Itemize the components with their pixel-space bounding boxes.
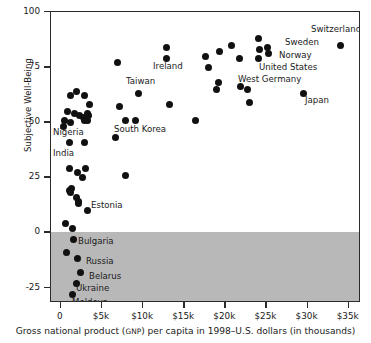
country-annotation: India: [53, 149, 74, 158]
data-point: [116, 103, 123, 110]
data-point: [81, 139, 88, 146]
plot-area: SwitzerlandSwedenNorwayUnited StatesWest…: [50, 11, 360, 302]
country-annotation: United States: [259, 63, 317, 72]
x-axis-label-pre: Gross national product (: [16, 326, 126, 336]
data-point: [216, 48, 223, 55]
data-point: [64, 108, 71, 115]
x-tick-mark: [348, 302, 349, 308]
country-annotation: South Korea: [114, 125, 166, 134]
data-point: [112, 134, 119, 141]
country-annotation: Ireland: [153, 62, 183, 71]
data-point: [213, 86, 220, 93]
country-annotation: West Germany: [238, 75, 301, 84]
country-annotation: Japan: [305, 96, 329, 105]
x-tick-mark: [224, 302, 225, 308]
data-point: [166, 101, 173, 108]
data-point: [255, 55, 262, 62]
data-point: [255, 35, 262, 42]
x-tick-mark: [183, 302, 184, 308]
country-annotation: Estonia: [91, 201, 123, 210]
data-point: [66, 165, 73, 172]
country-annotation: Sweden: [285, 38, 319, 47]
data-point: [192, 117, 199, 124]
data-point: [265, 50, 272, 57]
x-tick-mark: [60, 302, 61, 308]
data-point: [114, 59, 121, 66]
y-axis-label: Subjective Well-Being: [23, 25, 33, 185]
data-point: [69, 225, 76, 232]
data-point: [84, 207, 91, 214]
country-annotation: Ukraine: [76, 284, 109, 293]
country-annotation: Taiwan: [126, 77, 155, 86]
data-point: [73, 88, 80, 95]
y-tick-label: 50: [0, 116, 40, 126]
data-point: [86, 101, 93, 108]
data-point: [163, 44, 170, 51]
data-point: [62, 220, 69, 227]
y-tick-label: 100: [0, 6, 40, 16]
country-annotation: Nigeria: [53, 128, 84, 137]
data-point: [122, 172, 129, 179]
x-tick-mark: [307, 302, 308, 308]
y-tick-label: 0: [0, 226, 40, 236]
data-point: [63, 249, 70, 256]
data-point: [84, 117, 91, 124]
y-tick-label: -25: [0, 282, 40, 292]
x-tick-mark: [142, 302, 143, 308]
data-point: [256, 46, 263, 53]
data-point: [77, 269, 84, 276]
x-tick-label: $35k: [318, 311, 371, 321]
country-annotation: Switzerland: [311, 25, 360, 34]
data-point: [236, 55, 243, 62]
country-annotation: Norway: [279, 51, 312, 60]
data-point: [66, 139, 73, 146]
data-point: [228, 42, 235, 49]
country-annotation: Russia: [86, 257, 114, 266]
data-point: [246, 99, 253, 106]
data-point: [70, 236, 77, 243]
data-point: [81, 92, 88, 99]
scatter-chart-figure: Subjective Well-Being -250255075100 0$5k…: [0, 0, 371, 343]
data-point: [132, 117, 139, 124]
data-point: [82, 165, 89, 172]
data-point: [337, 42, 344, 49]
data-point: [75, 200, 82, 207]
data-point: [237, 83, 244, 90]
data-point: [202, 53, 209, 60]
country-annotation: Moldova: [72, 298, 108, 302]
y-tick-label: 25: [0, 171, 40, 181]
data-point: [67, 119, 74, 126]
x-axis-label-post: ) per capita in 1998–U.S. dollars (in th…: [141, 326, 355, 336]
data-point: [79, 174, 86, 181]
data-point: [135, 90, 142, 97]
data-point: [215, 79, 222, 86]
x-tick-mark: [101, 302, 102, 308]
data-point: [244, 86, 251, 93]
country-annotation: Bulgaria: [78, 237, 114, 246]
country-annotation: Belarus: [89, 272, 121, 281]
x-axis-label-gnp-smallcaps: GNP: [125, 327, 141, 336]
x-tick-mark: [265, 302, 266, 308]
data-point: [205, 64, 212, 71]
data-point: [122, 117, 129, 124]
x-axis-label: Gross national product (GNP) per capita …: [0, 326, 371, 336]
y-tick-label: 75: [0, 61, 40, 71]
